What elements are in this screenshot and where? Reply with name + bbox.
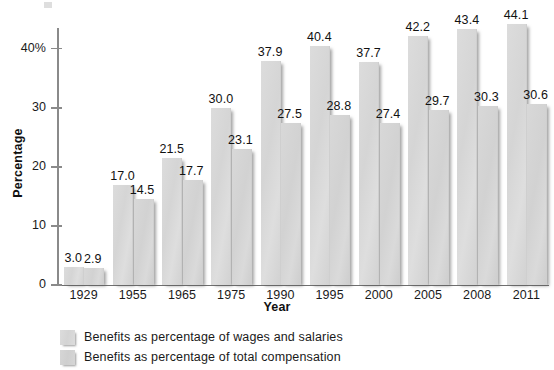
bar-value-label: 29.7: [420, 94, 454, 108]
bar-group: 37.927.5: [261, 28, 301, 285]
bar-value-label: 30.3: [469, 90, 503, 104]
bar-series-a: [408, 36, 428, 285]
y-axis-tick-label: 10: [0, 218, 46, 232]
bar-group: 42.229.7: [408, 28, 448, 285]
bar-value-label: 17.7: [174, 164, 208, 178]
legend-label-series-b: Benefits as percentage of total compensa…: [84, 350, 341, 364]
y-axis-tick-label: 30: [0, 100, 46, 114]
bar-value-label: 14.5: [125, 183, 159, 197]
y-axis-tick-label: 20: [0, 159, 46, 173]
chart-legend: Benefits as percentage of wages and sala…: [60, 327, 480, 367]
bar-series-a: [457, 29, 477, 285]
bar-series-b: [134, 199, 154, 285]
legend-swatch-series-b: [60, 350, 75, 365]
bar-series-b: [183, 180, 203, 285]
bar-group: 44.130.6: [507, 28, 547, 285]
bar-series-a: [64, 267, 84, 285]
bar-value-label: 2.9: [76, 252, 110, 266]
bar-series-b: [232, 149, 252, 285]
bar-group: 40.428.8: [310, 28, 350, 285]
scan-artifact: [44, 2, 52, 8]
bar-value-label: 37.9: [253, 45, 287, 59]
legend-item-series-a: Benefits as percentage of wages and sala…: [60, 327, 480, 347]
bar-value-label: 23.1: [223, 133, 257, 147]
bar-value-label: 27.5: [273, 107, 307, 121]
bar-value-label: 37.7: [352, 46, 386, 60]
bar-group: 37.727.4: [359, 28, 399, 285]
bar-group: 17.014.5: [113, 28, 153, 285]
bar-value-label: 40.4: [302, 30, 336, 44]
bar-value-label: 30.0: [204, 92, 238, 106]
bar-value-label: 43.4: [450, 13, 484, 27]
bar-group: 21.517.7: [162, 28, 202, 285]
plot-area: 3.02.917.014.521.517.730.023.137.927.540…: [57, 28, 549, 285]
bar-series-a: [507, 24, 527, 285]
bar-value-label: 21.5: [155, 142, 189, 156]
bar-group: 3.02.9: [64, 28, 104, 285]
y-axis-tick-label: 0: [0, 277, 46, 291]
legend-item-series-b: Benefits as percentage of total compensa…: [60, 347, 480, 367]
bar-series-b: [281, 123, 301, 285]
bar-group: 30.023.1: [211, 28, 251, 285]
bar-series-b: [380, 123, 400, 285]
bar-value-label: 28.8: [322, 99, 356, 113]
bar-value-label: 27.4: [371, 107, 405, 121]
legend-label-series-a: Benefits as percentage of wages and sala…: [84, 330, 343, 344]
bar-series-a: [310, 46, 330, 285]
bar-group: 43.430.3: [457, 28, 497, 285]
bar-series-a: [359, 62, 379, 285]
bar-value-label: 30.6: [519, 88, 553, 102]
bar-series-b: [527, 104, 547, 285]
bar-value-label: 42.2: [401, 20, 435, 34]
bar-series-b: [429, 110, 449, 285]
x-axis-title: Year: [0, 300, 554, 314]
y-axis-tick-label: 40%: [0, 41, 46, 55]
bar-series-a: [113, 185, 133, 285]
bar-series-b: [478, 106, 498, 285]
bar-chart: Percentage 010203040% 3.02.917.014.521.5…: [0, 0, 554, 370]
bar-value-label: 17.0: [106, 169, 140, 183]
bar-series-b: [330, 115, 350, 285]
bar-series-b: [84, 268, 104, 285]
legend-swatch-series-a: [60, 330, 75, 345]
bar-series-a: [261, 61, 281, 285]
bar-value-label: 44.1: [499, 8, 533, 22]
